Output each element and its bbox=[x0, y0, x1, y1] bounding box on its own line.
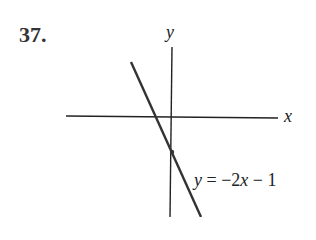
equation-label: y = −2x − 1 bbox=[194, 170, 276, 191]
y-axis bbox=[170, 47, 172, 217]
x-axis bbox=[66, 116, 278, 118]
x-axis-label: x bbox=[284, 106, 292, 127]
y-intercept-point bbox=[170, 150, 174, 154]
line-graph bbox=[131, 62, 201, 217]
equation-rest: − 1 bbox=[248, 170, 276, 190]
equation-lhs: y bbox=[194, 170, 202, 190]
equation-eq: = −2 bbox=[202, 170, 240, 190]
y-axis-label: y bbox=[166, 22, 174, 43]
